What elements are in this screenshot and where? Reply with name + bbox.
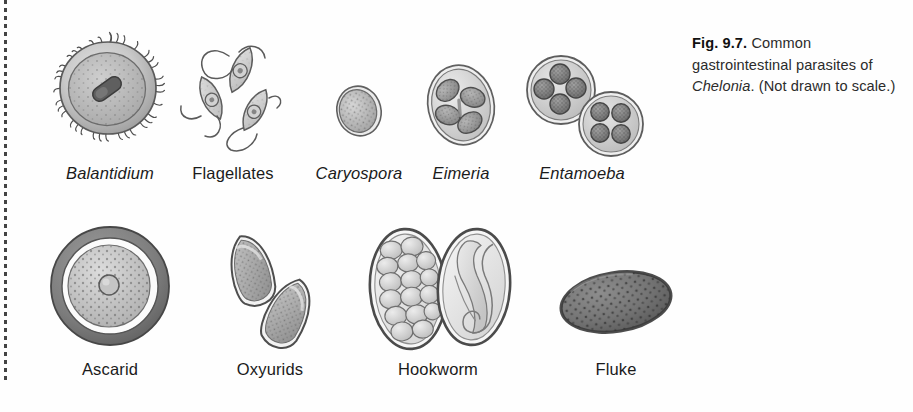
specimen-ascarid: Ascarid [42, 225, 178, 385]
caption-taxon-name: Chelonia [692, 78, 750, 94]
figure-caption: Fig. 9.7. Common gastrointestinal parasi… [692, 33, 897, 98]
specimen-label-entamoeba: Entamoeba [539, 164, 625, 183]
specimen-label-hookworm: Hookworm [398, 360, 478, 379]
fluke-egg-icon [555, 265, 677, 339]
specimen-label-balantidium: Balantidium [66, 164, 154, 183]
specimen-oxyurids: Oxyurids [202, 225, 338, 385]
specimen-label-ascarid: Ascarid [82, 360, 138, 379]
specimen-eimeria: Eimeria [400, 32, 522, 182]
specimen-label-oxyurids: Oxyurids [237, 360, 303, 379]
figure-container: Fig. 9.7. Common gastrointestinal parasi… [0, 0, 913, 412]
specimen-hookworm: Hookworm [358, 225, 518, 385]
flagellates-icon [177, 36, 289, 154]
page-scan-edge-rule [4, 0, 7, 384]
specimen-label-fluke: Fluke [595, 360, 636, 379]
specimen-label-flagellates: Flagellates [192, 164, 273, 183]
caption-text-tail: . (Not drawn to scale.) [750, 78, 895, 94]
specimen-balantidium: Balantidium [42, 32, 178, 182]
figure-number: Fig. 9.7. [692, 35, 747, 51]
specimen-label-eimeria: Eimeria [433, 164, 490, 183]
balantidium-ciliate-icon [50, 32, 170, 152]
specimen-label-caryospora: Caryospora [316, 164, 403, 183]
specimen-entamoeba: Entamoeba [508, 32, 656, 182]
entamoeba-cyst-icon [519, 48, 645, 158]
caryospora-oocyst-icon [329, 80, 389, 142]
ascarid-egg-icon [49, 225, 171, 347]
specimen-flagellates: Flagellates [172, 32, 294, 182]
specimen-fluke: Fluke [548, 225, 684, 385]
eimeria-oocyst-icon [418, 58, 504, 152]
hookworm-eggs-icon [364, 225, 512, 353]
oxyurid-eggs-icon [212, 229, 328, 355]
